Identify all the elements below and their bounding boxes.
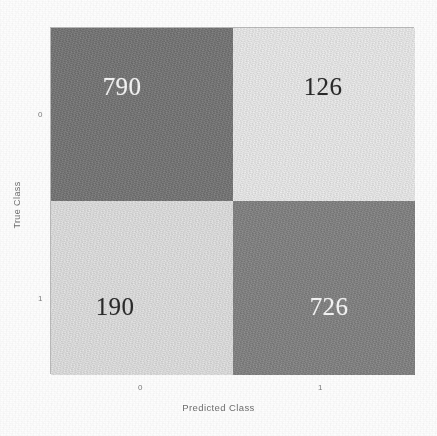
confusion-matrix-figure: 790 126 190 726 0 1 0 1 True Class Predi… <box>0 0 437 436</box>
matrix-cell-value: 190 <box>96 294 135 319</box>
x-axis-tick-label-0: 0 <box>138 383 142 392</box>
x-axis-tick-label-1: 1 <box>318 383 322 392</box>
matrix-cell-value: 126 <box>304 74 343 99</box>
matrix-cell-value: 726 <box>310 294 349 319</box>
y-axis-tick-label-1: 1 <box>38 294 42 303</box>
matrix-cell-value: 790 <box>103 74 142 99</box>
y-axis-tick-label-0: 0 <box>38 110 42 119</box>
matrix-cell-true0-pred1: 126 <box>233 28 415 201</box>
x-axis-title: Predicted Class <box>0 402 437 413</box>
confusion-matrix-plot-area: 790 126 190 726 <box>50 27 414 374</box>
matrix-cell-true0-pred0: 790 <box>51 28 233 201</box>
matrix-cell-true1-pred0: 190 <box>51 201 233 375</box>
matrix-cell-true1-pred1: 726 <box>233 201 415 375</box>
y-axis-title: True Class <box>12 181 22 228</box>
